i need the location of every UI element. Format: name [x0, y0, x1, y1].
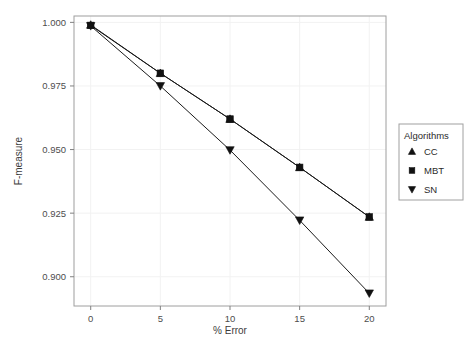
- y-tick-labels: 0.9000.9250.9500.9751.000: [42, 17, 66, 282]
- legend: Algorithms CCMBTSN: [399, 124, 463, 200]
- legend-label-MBT: MBT: [424, 165, 444, 176]
- y-tick-label-2: 0.950: [42, 144, 66, 155]
- y-tick-label-3: 0.975: [42, 80, 66, 91]
- line-chart: 0.9000.9250.9500.9751.000 05101520 % Err…: [0, 0, 476, 350]
- legend-title: Algorithms: [404, 130, 449, 141]
- x-tick-label-2: 10: [225, 313, 236, 324]
- chart-figure: 0.9000.9250.9500.9751.000 05101520 % Err…: [0, 0, 476, 350]
- y-tick-label-4: 1.000: [42, 17, 66, 28]
- data-point-MBT-20: [366, 214, 373, 221]
- data-point-MBT-5: [157, 70, 164, 77]
- legend-label-SN: SN: [424, 184, 437, 195]
- x-axis-title: % Error: [213, 325, 248, 336]
- y-axis-title: F-measure: [13, 136, 24, 185]
- legend-label-CC: CC: [424, 146, 438, 157]
- x-tick-label-1: 5: [158, 313, 163, 324]
- x-tick-labels: 05101520: [88, 313, 375, 324]
- chart-canvas: 0.9000.9250.9500.9751.000 05101520 % Err…: [0, 0, 476, 350]
- x-tick-label-4: 20: [364, 313, 375, 324]
- data-point-MBT-15: [296, 164, 303, 171]
- y-tick-label-0: 0.900: [42, 271, 66, 282]
- legend-marker-MBT: [409, 168, 415, 174]
- data-point-MBT-10: [227, 116, 234, 123]
- x-tick-label-0: 0: [88, 313, 93, 324]
- x-tick-label-3: 15: [294, 313, 305, 324]
- y-tick-label-1: 0.925: [42, 208, 66, 219]
